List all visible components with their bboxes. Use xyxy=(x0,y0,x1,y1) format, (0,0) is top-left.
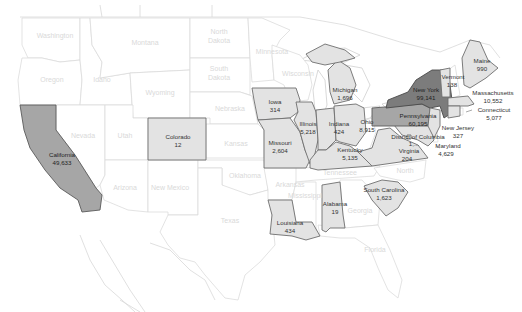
us-choropleth-map: Washington Oregon Idaho Montana Wyoming … xyxy=(0,0,522,312)
state-connecticut[interactable] xyxy=(448,106,460,118)
label-north-dakota-1: North xyxy=(210,28,227,35)
label-maryland-name: Maryland xyxy=(435,142,461,149)
label-indiana-value: 424 xyxy=(334,128,345,135)
label-vermont-name: Vermont xyxy=(441,73,464,80)
label-tennessee: Tennessee xyxy=(323,169,357,176)
label-indiana-name: Indiana xyxy=(329,120,350,127)
label-ohio-name: Ohio xyxy=(360,118,374,125)
label-new-jersey-name: New Jersey xyxy=(442,124,475,131)
label-pennsylvania-name: Pennsylvania xyxy=(400,112,437,119)
label-wisconsin: Wisconsin xyxy=(282,70,314,77)
label-illinois-name: Illinois xyxy=(299,120,316,127)
label-ohio-value: 8,915 xyxy=(359,126,375,133)
label-michigan-value: 1,696 xyxy=(337,94,353,101)
label-california-value: 49,633 xyxy=(53,159,72,166)
label-louisiana-value: 434 xyxy=(285,227,296,234)
label-new-york-value: 99,141 xyxy=(417,94,436,101)
label-arkansas: Arkansas xyxy=(275,181,305,188)
label-virginia-value: 204 xyxy=(402,155,413,162)
label-connecticut-value: 5,077 xyxy=(486,114,502,121)
label-south-dakota-2: Dakota xyxy=(208,74,230,81)
label-dc-name: District of Columbia xyxy=(391,133,445,140)
label-nebraska: Nebraska xyxy=(215,105,245,112)
label-connecticut-name: Connecticut xyxy=(478,106,511,113)
state-florida[interactable] xyxy=(318,225,402,298)
label-illinois-value: 5,218 xyxy=(300,128,316,135)
state-massachusetts[interactable] xyxy=(448,96,474,106)
label-south-dakota-1: South xyxy=(210,65,228,72)
state-michigan-up[interactable] xyxy=(306,44,355,65)
label-minnesota: Minnesota xyxy=(256,48,288,55)
label-arizona: Arizona xyxy=(113,184,137,191)
label-vermont-value: 138 xyxy=(447,81,458,88)
label-kentucky-name: Kentucky xyxy=(337,146,363,153)
label-new-mexico: New Mexico xyxy=(151,184,189,191)
label-north-carolina: North xyxy=(396,167,413,174)
state-washington[interactable] xyxy=(22,18,80,62)
label-nevada: Nevada xyxy=(71,132,95,139)
state-maine[interactable] xyxy=(462,40,498,88)
label-montana: Montana xyxy=(131,39,158,46)
label-new-jersey-value: 327 xyxy=(453,132,464,139)
label-utah: Utah xyxy=(118,132,133,139)
label-colorado-value: 12 xyxy=(175,141,182,148)
label-louisiana-name: Louisiana xyxy=(277,219,304,226)
label-new-york-name: New York xyxy=(413,86,440,93)
label-idaho: Idaho xyxy=(93,76,111,83)
label-maine-value: 990 xyxy=(477,65,488,72)
label-wyoming: Wyoming xyxy=(145,89,174,97)
label-washington: Washington xyxy=(37,32,74,40)
label-maine-name: Maine xyxy=(474,57,491,64)
label-alabama-name: Alabama xyxy=(323,200,348,207)
label-california-name: California xyxy=(49,151,76,158)
label-mississippi: Mississippi xyxy=(288,192,322,200)
label-michigan-name: Michigan xyxy=(333,86,358,93)
label-dc-value: 1,... xyxy=(409,140,420,147)
label-missouri-name: Missouri xyxy=(268,139,291,146)
label-maryland-value: 4,629 xyxy=(438,150,454,157)
label-oregon: Oregon xyxy=(40,76,63,84)
label-georgia: Georgia xyxy=(348,207,373,215)
label-florida: Florida xyxy=(364,246,386,253)
connecticut-leader-line xyxy=(466,110,472,112)
label-south-carolina-value: 1,623 xyxy=(376,194,392,201)
label-virginia-name: Virginia xyxy=(399,147,420,154)
label-kansas: Kansas xyxy=(224,140,248,147)
label-north-dakota-2: Dakota xyxy=(208,37,230,44)
label-missouri-value: 2,604 xyxy=(272,147,288,154)
label-kentucky-value: 5,135 xyxy=(342,154,358,161)
label-oklahoma: Oklahoma xyxy=(229,172,261,179)
label-iowa-value: 314 xyxy=(270,106,281,113)
label-pennsylvania-value: 60,195 xyxy=(409,120,428,127)
state-montana[interactable] xyxy=(90,18,190,78)
label-iowa-name: Iowa xyxy=(268,98,282,105)
label-south-carolina-name: South Carolina xyxy=(364,186,405,193)
label-alabama-value: 19 xyxy=(332,208,339,215)
label-colorado-name: Colorado xyxy=(165,133,191,140)
label-massachusetts-value: 10,552 xyxy=(484,97,503,104)
label-massachusetts-name: Massachusetts xyxy=(472,89,513,96)
label-texas: Texas xyxy=(221,217,240,224)
